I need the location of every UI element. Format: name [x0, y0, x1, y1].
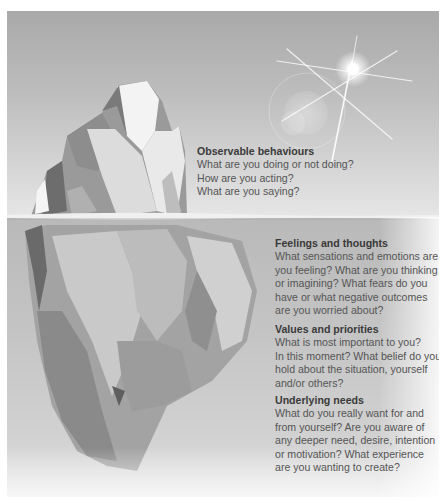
section-text: What do you really want for and [275, 407, 435, 420]
section-title: Observable behaviours [197, 145, 354, 158]
waterline [7, 213, 439, 220]
section-title: Values and priorities [275, 323, 439, 336]
iceberg-illustration: Observable behaviours What are you doing… [7, 11, 439, 497]
section-text: any deeper need, desire, intention [275, 434, 435, 447]
section-underlying-needs: Underlying needs What do you really want… [275, 394, 435, 474]
section-text: from yourself? Are you aware of [275, 421, 435, 434]
section-text: have or what negative outcomes [275, 291, 438, 304]
section-text: or imagining? What fears do you [275, 277, 438, 290]
section-text: What sensations and emotions are [275, 250, 438, 263]
section-text: are you wanting to create? [275, 461, 435, 474]
section-text: you feeling? What are you thinking [275, 264, 438, 277]
section-values-and-priorities: Values and priorities What is most impor… [275, 323, 439, 390]
section-text: hold about the situation, yourself [275, 363, 439, 376]
section-text: and/or others? [275, 377, 439, 390]
section-text: What are you doing or not doing? [197, 158, 354, 171]
sun-icon [269, 36, 412, 161]
section-observable-behaviours: Observable behaviours What are you doing… [197, 145, 354, 199]
iceberg-tip-icon [31, 81, 187, 216]
section-text: In this moment? What belief do you [275, 350, 439, 363]
section-text: or motivation? What experience [275, 448, 435, 461]
section-feelings-and-thoughts: Feelings and thoughts What sensations an… [275, 237, 438, 317]
iceberg-underwater-icon [25, 225, 257, 471]
section-text: How are you acting? [197, 172, 354, 185]
section-title: Underlying needs [275, 394, 435, 407]
section-text: are you worried about? [275, 304, 438, 317]
section-title: Feelings and thoughts [275, 237, 438, 250]
section-text: What is most important to you? [275, 336, 439, 349]
section-text: What are you saying? [197, 185, 354, 198]
